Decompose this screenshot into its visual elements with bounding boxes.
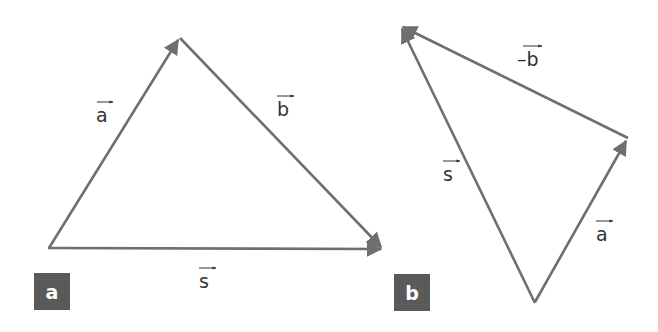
vector-s-arrow xyxy=(402,29,535,303)
vector-addition-diagram: a b s a –b s a xyxy=(0,0,658,332)
svg-text:b: b xyxy=(405,282,419,304)
svg-text:s: s xyxy=(199,270,209,292)
svg-text:b: b xyxy=(277,98,289,120)
vector-s-arrow xyxy=(48,248,381,249)
label-a: a xyxy=(96,102,113,126)
label-s: s xyxy=(199,268,216,292)
vector-b-arrow xyxy=(180,38,381,247)
label-neg-b: –b xyxy=(517,46,542,70)
label-a: a xyxy=(596,221,613,245)
panel-a: a b s a xyxy=(34,38,381,310)
panel-b: –b s a b xyxy=(394,27,628,311)
svg-text:s: s xyxy=(443,163,453,185)
vector-neg-b-arrow xyxy=(403,27,628,138)
panel-a-badge: a xyxy=(34,273,70,310)
svg-text:–b: –b xyxy=(517,48,539,70)
label-s: s xyxy=(443,161,460,185)
svg-text:a: a xyxy=(96,104,108,126)
panel-b-badge: b xyxy=(394,274,430,311)
label-b: b xyxy=(277,96,294,120)
vector-a-arrow xyxy=(49,40,178,248)
svg-text:a: a xyxy=(46,281,59,303)
svg-text:a: a xyxy=(596,223,608,245)
